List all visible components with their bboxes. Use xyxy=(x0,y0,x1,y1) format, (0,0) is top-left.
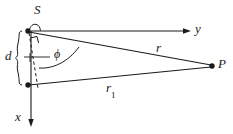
label-point-P: P xyxy=(218,57,226,70)
label-separation-d: d xyxy=(5,49,12,62)
label-x-axis: x xyxy=(15,110,21,123)
angle-leader xyxy=(24,53,50,62)
ray-r1-line xyxy=(29,67,211,85)
y-axis xyxy=(31,28,191,34)
field-point-dot xyxy=(209,63,214,68)
lower-source-dot xyxy=(25,82,30,87)
source-pointer-bracket xyxy=(29,24,41,31)
interference-geometry-figure: S y r P ϕ d r1 x xyxy=(0,0,233,134)
label-angle-phi: ϕ xyxy=(54,48,60,60)
label-ray-r1-subscript: 1 xyxy=(111,90,116,100)
upper-source-dot xyxy=(25,28,30,33)
label-ray-r: r xyxy=(156,41,161,54)
label-source-S: S xyxy=(34,3,41,16)
separation-brace xyxy=(16,31,23,85)
label-y-axis: y xyxy=(195,22,201,35)
y-axis-arrowhead xyxy=(183,28,191,34)
label-ray-r1: r1 xyxy=(106,81,116,98)
x-axis-arrowhead xyxy=(28,119,33,127)
